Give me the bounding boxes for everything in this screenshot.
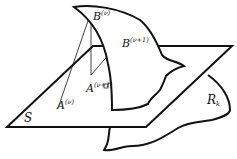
label-b-v-superscript: (ν) [101, 9, 110, 17]
label-a-v: A(ν) [57, 99, 74, 111]
label-region-rk-text: R [207, 93, 216, 107]
label-b-v1-superscript: (ν+1) [130, 36, 149, 44]
label-a-v-text: A [57, 99, 65, 112]
label-b-v-text: B [93, 10, 101, 23]
label-b-v1: B(ν+1) [122, 37, 149, 49]
label-a-v-superscript: (ν) [65, 98, 74, 106]
label-a-v1-superscript: (ν+1) [94, 81, 113, 89]
label-a-v1-text: A [86, 82, 94, 95]
label-b-v1-text: B [122, 37, 130, 50]
label-region-rk-subscript: k [216, 100, 220, 108]
label-region-rk: Rk [207, 94, 220, 108]
diagram-canvas [0, 0, 237, 159]
label-plane-s-text: S [24, 111, 32, 125]
label-plane-s: S [24, 112, 32, 124]
label-a-v1: A(ν+1) [86, 82, 113, 94]
label-b-v: B(ν) [93, 10, 110, 22]
